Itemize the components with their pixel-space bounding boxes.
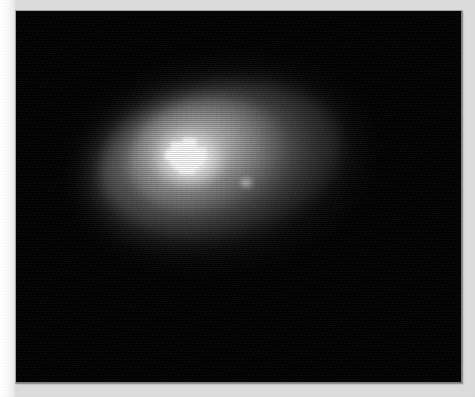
outer-envelope-glow	[65, 46, 379, 281]
film-grain-overlay	[16, 11, 462, 383]
nucleus-pixel-block	[171, 142, 183, 149]
secondary-knot	[238, 176, 254, 189]
nucleus-pixel-block	[165, 151, 201, 160]
image-plate[interactable]	[16, 11, 462, 383]
nucleus-saturated-pixels	[165, 138, 213, 178]
main-body-glow	[87, 63, 356, 255]
plate-border	[16, 11, 462, 383]
nucleus-pixel-block	[170, 157, 203, 165]
nucleus-glow	[152, 129, 226, 187]
nucleus-pixel-block	[196, 148, 206, 160]
inner-bulge-glow	[118, 84, 294, 226]
figure-root	[0, 0, 475, 397]
nucleus-pixel-block	[174, 163, 199, 170]
pixel-rebinning-overlay	[16, 11, 462, 383]
nucleus-pixel-block	[183, 138, 196, 149]
lower-left-spur	[103, 156, 258, 246]
halftone-scanline-overlay	[16, 11, 462, 383]
nucleus-pixel-block	[179, 168, 195, 174]
nucleus-pixel-block	[168, 149, 196, 157]
